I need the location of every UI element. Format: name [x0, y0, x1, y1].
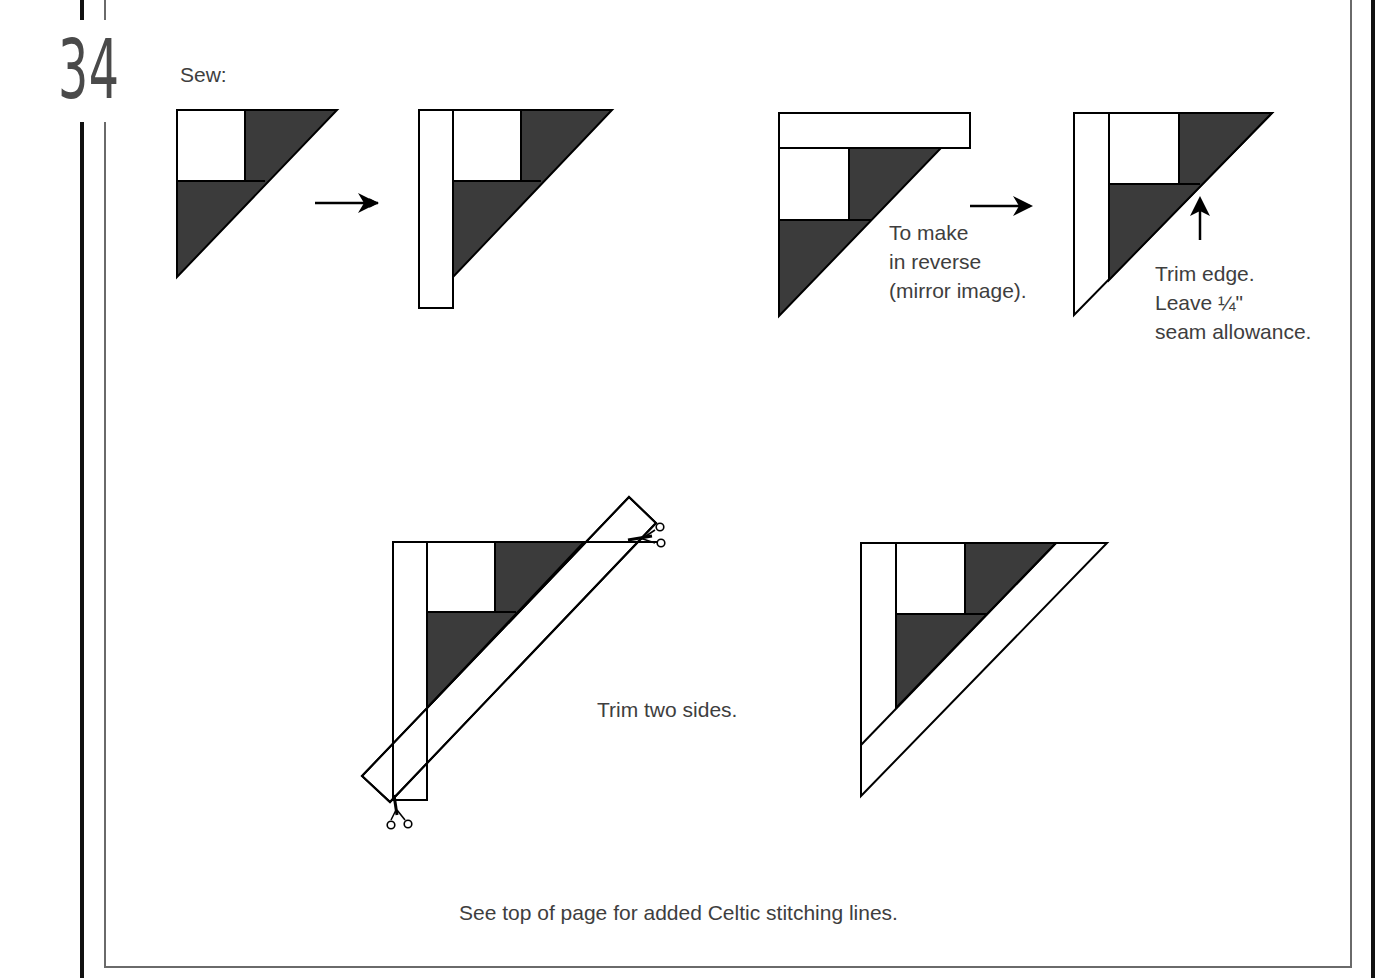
trim-note-line-1: Trim edge. [1155, 259, 1311, 288]
arrow-right-icon [315, 193, 378, 213]
trim-two-sides-note: Trim two sides. [597, 695, 737, 724]
footer-note: See top of page for added Celtic stitchi… [459, 898, 898, 927]
trim-note-line-2: Leave ¼" [1155, 288, 1311, 317]
fig-5-block [362, 497, 660, 802]
reverse-note-line-2: in reverse [889, 247, 1027, 276]
fig-6-block [861, 543, 1107, 796]
arrow-up-icon [1190, 196, 1210, 240]
trim-note: Trim edge. Leave ¼" seam allowance. [1155, 259, 1311, 346]
reverse-note-line-1: To make [889, 218, 1027, 247]
arrow-right-icon [970, 196, 1033, 216]
reverse-note-line-3: (mirror image). [889, 276, 1027, 305]
fig-2-block [419, 110, 612, 308]
trim-note-line-3: seam allowance. [1155, 317, 1311, 346]
reverse-note: To make in reverse (mirror image). [889, 218, 1027, 305]
fig-1-block [177, 110, 337, 277]
quilt-diagrams [0, 0, 1386, 978]
